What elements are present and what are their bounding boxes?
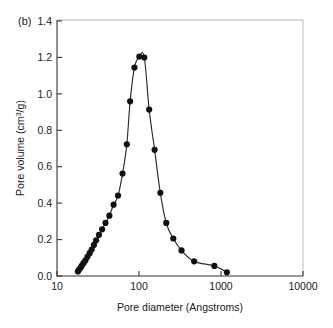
data-point-marker (224, 269, 230, 275)
y-tick-label: 1.4 (37, 15, 52, 27)
data-point-marker (127, 98, 133, 104)
y-tick-label: 0.6 (37, 160, 52, 172)
data-point-marker (163, 220, 169, 226)
data-point-marker (146, 107, 152, 113)
panel-label: (b) (18, 15, 31, 27)
data-point-marker (170, 235, 176, 241)
data-point-marker (178, 247, 184, 253)
data-point-marker (106, 213, 112, 219)
y-tick-label: 0.0 (37, 270, 52, 282)
data-point-marker (124, 141, 130, 147)
data-point-marker (119, 171, 125, 177)
x-tick-label: 1000 (209, 280, 233, 292)
data-point-marker (102, 220, 108, 226)
y-axis-title-base: Pore volume (cm (14, 116, 26, 196)
y-tick-label: 0.2 (37, 233, 52, 245)
data-point-marker (211, 263, 217, 269)
y-tick-label: 0.4 (37, 197, 52, 209)
data-point-marker (191, 258, 197, 264)
x-tick-label: 10 (51, 280, 63, 292)
data-point-marker (111, 202, 117, 208)
data-point-marker (115, 192, 121, 198)
data-point-marker (141, 54, 147, 60)
y-axis-title-tail: /g) (14, 100, 26, 112)
pore-size-distribution-chart: 0.0 0.2 0.4 0.6 0.8 1.0 1.2 1.4 10 100 1… (0, 0, 333, 328)
data-point-marker (157, 190, 163, 196)
x-axis-title: Pore diameter (Angstroms) (117, 301, 243, 313)
x-tick-label: 100 (130, 280, 148, 292)
x-tick-label: 10000 (288, 280, 317, 292)
data-point-marker (93, 237, 99, 243)
data-point-marker (96, 232, 102, 238)
figure-container: 0.0 0.2 0.4 0.6 0.8 1.0 1.2 1.4 10 100 1… (0, 0, 333, 328)
data-point-marker (152, 147, 158, 153)
data-point-marker (131, 64, 137, 70)
y-tick-label: 1.2 (37, 51, 52, 63)
data-point-marker (99, 226, 105, 232)
y-tick-label: 0.8 (37, 124, 52, 136)
y-tick-label: 1.0 (37, 88, 52, 100)
